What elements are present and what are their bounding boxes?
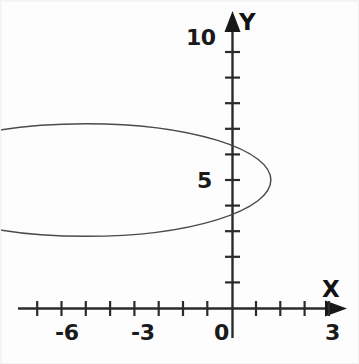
x-tick-label-minus6: -6	[55, 320, 78, 345]
y-tick-label-five: 5	[197, 168, 212, 193]
y-tick-label-ten: 10	[186, 25, 216, 50]
x-tick-label-minus3: -3	[131, 320, 154, 345]
plot-canvas	[0, 0, 359, 364]
x-axis-group	[18, 301, 347, 317]
coordinate-plot-figure: -6 -3 0 3 5 10 Y X	[0, 0, 359, 364]
x-axis-label: X	[322, 276, 340, 302]
x-tick-label-zero: 0	[214, 320, 229, 345]
y-axis-group	[225, 11, 241, 338]
x-tick-label-three: 3	[325, 320, 340, 345]
y-axis-label: Y	[239, 9, 256, 35]
